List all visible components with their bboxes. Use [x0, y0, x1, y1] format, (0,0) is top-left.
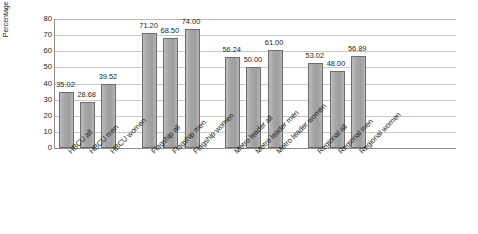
- bar-value-label: 56.89: [337, 45, 377, 52]
- bar: [225, 57, 240, 148]
- bar-value-label: 28.68: [67, 91, 107, 98]
- y-tick-label: 0: [30, 144, 52, 152]
- y-tick-label: 30: [30, 96, 52, 104]
- bar-value-label: 68.50: [150, 27, 190, 34]
- bar-value-label: 35.02: [46, 81, 86, 88]
- bar-value-label: 48.00: [316, 60, 356, 67]
- bar-value-label: 61.00: [254, 39, 294, 46]
- bar-value-label: 50.00: [233, 56, 273, 63]
- y-tick-label: 50: [30, 63, 52, 71]
- bar-value-label: 56.24: [212, 46, 252, 53]
- y-tick-label: 70: [30, 31, 52, 39]
- y-tick-label: 10: [30, 128, 52, 136]
- bar-value-label: 53.02: [295, 52, 335, 59]
- y-tick-label: 80: [30, 15, 52, 23]
- bar-value-label: 74.00: [171, 18, 211, 25]
- y-tick-label: 20: [30, 112, 52, 120]
- y-axis-title: Percentage increase in graduation rate: [2, 0, 28, 44]
- bar-chart: Percentage increase in graduation rate 0…: [0, 0, 478, 234]
- y-tick-label: 60: [30, 47, 52, 55]
- bar-value-label: 39.52: [88, 73, 128, 80]
- bar: [59, 92, 74, 148]
- x-axis-labels: HBCU allHBCU menHBCU womenFlagship allFl…: [54, 150, 478, 234]
- bar: [142, 33, 157, 148]
